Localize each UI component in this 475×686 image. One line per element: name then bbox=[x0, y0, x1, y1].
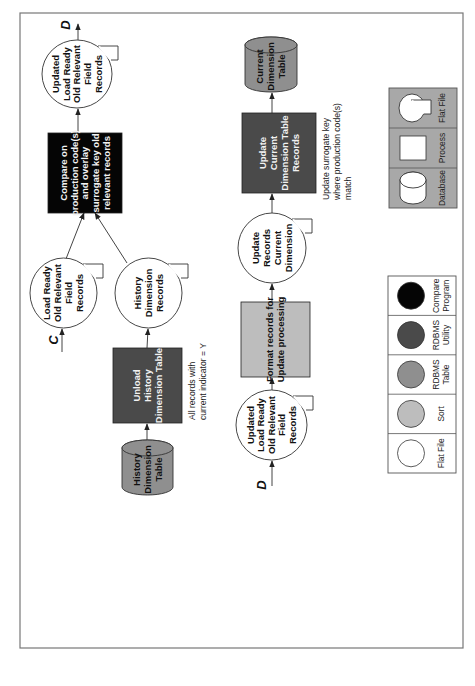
database-icon-top bbox=[400, 172, 426, 188]
node-unload-history: UnloadHistoryDimension Table bbox=[113, 348, 182, 423]
update-note-line: Update surrogate key bbox=[321, 117, 331, 200]
update-current-table-label-line: Dimension Table bbox=[279, 115, 290, 190]
update-note: Update surrogate keywhere production cod… bbox=[321, 103, 353, 201]
history-dimension-table-label-line: Dimension bbox=[142, 445, 153, 494]
legend-item-label: Table bbox=[441, 364, 451, 384]
compare-program-label-line: Compare on bbox=[58, 145, 69, 201]
compare-program-label-line: surrogate key old bbox=[90, 133, 101, 212]
updated-load-ready-bottom-label-line: Records bbox=[287, 406, 298, 444]
current-dimension-table-label-line: Table bbox=[276, 54, 287, 78]
legend-symbols: Flat FileSortRDBMSTableRDBMSUtilityCompa… bbox=[388, 276, 456, 473]
update-note-line: where production code(s) bbox=[332, 103, 342, 201]
node-update-current-table: UpdateCurrentDimension TableRecords bbox=[242, 113, 316, 193]
history-dimension-records-label-line: History bbox=[132, 276, 143, 309]
legend: Flat FileSortRDBMSTableRDBMSUtilityCompa… bbox=[388, 84, 457, 473]
edge-history-records-to-compare bbox=[95, 213, 127, 263]
rdbms-utility-icon bbox=[398, 322, 425, 349]
flat-file-icon bbox=[398, 440, 425, 467]
connector-d-out-label: D bbox=[58, 20, 73, 30]
history-dimension-records-label-line: Dimension bbox=[143, 269, 154, 318]
load-ready-old-label-line: Old Relevant bbox=[52, 263, 63, 322]
current-dimension-table-label-line: Current bbox=[254, 49, 265, 84]
node-update-records-current: UpdateRecordsCurrentDimension bbox=[238, 203, 314, 283]
update-current-table-label-line: Update bbox=[257, 137, 268, 169]
process-icon bbox=[400, 136, 426, 160]
node-history-dimension-table: HistoryDimensionTable bbox=[122, 440, 173, 495]
diagram-stage: HistoryDimensionTableUnloadHistoryDimens… bbox=[0, 0, 475, 686]
updated-load-ready-bottom-label-line: Old Relevant bbox=[266, 395, 277, 454]
legend-shapes: DatabaseProcessFlat File bbox=[389, 84, 457, 208]
compare-program-label-line: production code(s) bbox=[69, 130, 80, 216]
format-records-label-line: Format records for bbox=[264, 297, 275, 382]
legend-item-label: Compare bbox=[431, 278, 441, 313]
node-load-ready-old: Load ReadyOld RelevantFieldRecords bbox=[30, 248, 105, 328]
node-format-records: Format records forUpdate processing bbox=[241, 297, 310, 383]
format-records-label-line: Update processing bbox=[275, 297, 286, 383]
format-records-label: Format records forUpdate processing bbox=[264, 297, 286, 383]
updated-load-ready-top-label-line: Old Relevant bbox=[71, 44, 82, 103]
update-records-current-label-line: Update bbox=[250, 232, 261, 264]
load-ready-old-label-line: Load Ready bbox=[41, 265, 52, 320]
updated-load-ready-top-label-line: Records bbox=[93, 55, 104, 93]
load-ready-old-label-line: Field bbox=[63, 282, 74, 304]
unload-history-label-line: Unload bbox=[131, 369, 142, 401]
update-records-current-label-line: Dimension bbox=[283, 224, 294, 273]
legend-shape-label: Flat File bbox=[437, 93, 447, 123]
edge-unload-to-history-records bbox=[147, 329, 148, 348]
unload-history-label-line: Dimension Table bbox=[153, 348, 164, 423]
legend-item-label: RDBMS bbox=[431, 320, 441, 351]
edge-load-ready-to-compare bbox=[64, 213, 84, 264]
node-current-dimension-table: CurrentDimensionTable bbox=[245, 37, 297, 92]
legend-shape-label: Database bbox=[437, 170, 447, 206]
updated-load-ready-top-label-line: Load Ready bbox=[61, 46, 72, 101]
legend-item-label: Utility bbox=[441, 324, 451, 345]
legend-item-label: Sort bbox=[436, 406, 446, 422]
history-dimension-table-label-line: Table bbox=[153, 457, 164, 481]
rdbms-table-icon bbox=[398, 361, 425, 388]
load-ready-old-label-line: Records bbox=[74, 274, 85, 312]
legend-shape-database: Database bbox=[400, 170, 447, 206]
etl-flow-diagram: HistoryDimensionTableUnloadHistoryDimens… bbox=[0, 0, 475, 686]
legend-shape-label: Process bbox=[437, 133, 447, 163]
updated-load-ready-top-label-line: Field bbox=[82, 63, 93, 85]
update-note-line: match bbox=[343, 176, 353, 200]
history-dimension-records-label-line: Records bbox=[154, 274, 165, 312]
unload-note-line: All records with bbox=[187, 362, 197, 420]
node-history-dimension-records: HistoryDimensionRecords bbox=[115, 248, 190, 328]
current-dimension-table-label-line: Dimension bbox=[265, 42, 276, 91]
unload-note: All records withcurrent indicator = Y bbox=[187, 343, 208, 420]
update-current-table-label-line: Current bbox=[268, 135, 279, 170]
sort-icon bbox=[398, 400, 425, 427]
node-updated-load-ready-bottom: UpdatedLoad ReadyOld RelevantFieldRecord… bbox=[236, 380, 315, 460]
connector-d-in-label: D bbox=[254, 480, 269, 490]
updated-load-ready-bottom-label-line: Load Ready bbox=[255, 397, 266, 452]
compare-program-label-line: and overlay bbox=[79, 146, 90, 200]
history-dimension-table-label-line: History bbox=[131, 452, 142, 485]
node-compare-program: Compare onproduction code(s)and overlays… bbox=[48, 130, 122, 216]
node-updated-load-ready-top: UpdatedLoad ReadyOld RelevantFieldRecord… bbox=[42, 30, 120, 108]
update-records-current-label-line: Records bbox=[261, 229, 272, 267]
updated-load-ready-bottom-label-line: Updated bbox=[245, 406, 256, 444]
update-current-table-label-line: Records bbox=[290, 134, 301, 172]
unload-note-line: current indicator = Y bbox=[198, 343, 208, 420]
legend-item-label: RDBMS bbox=[431, 359, 441, 390]
legend-item-label: Program bbox=[441, 280, 451, 312]
updated-load-ready-top-label-line: Updated bbox=[50, 55, 61, 93]
unload-history-label-line: History bbox=[142, 368, 153, 401]
updated-load-ready-bottom-label-line: Field bbox=[276, 414, 287, 436]
compare-program-label-line: relevant records bbox=[101, 136, 112, 210]
legend-item-label: Flat File bbox=[436, 438, 446, 468]
connector-c-label: C bbox=[46, 335, 61, 345]
update-records-current-label-line: Current bbox=[272, 230, 283, 265]
nodes: HistoryDimensionTableUnloadHistoryDimens… bbox=[30, 20, 353, 495]
compare-program-icon bbox=[398, 282, 425, 309]
